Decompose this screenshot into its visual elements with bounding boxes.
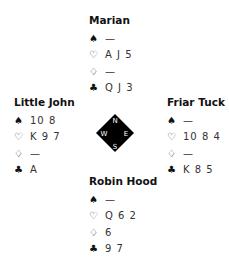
suit-row-clubs: ♣ 9 7 — [89, 241, 157, 258]
suit-cards: Q J 3 — [105, 82, 134, 93]
suit-row-diamonds: ♢ — — [14, 145, 75, 162]
club-icon: ♣ — [89, 243, 105, 254]
compass-east-label: E — [124, 130, 128, 138]
player-name-east: Friar Tuck — [167, 95, 225, 109]
suit-row-clubs: ♣ Q J 3 — [89, 80, 134, 97]
suit-row-diamonds: ♢ 6 — [89, 224, 157, 241]
suit-row-spades: ♠ 10 8 — [14, 112, 75, 129]
suit-row-clubs: ♣ K 8 5 — [167, 162, 225, 179]
suit-cards: A J 5 — [105, 49, 133, 60]
player-name-north: Marian — [89, 13, 134, 27]
suit-cards: — — [183, 115, 194, 126]
diamond-icon: ♢ — [14, 148, 30, 159]
spade-icon: ♠ — [167, 115, 183, 126]
suit-cards: 10 8 — [30, 115, 56, 126]
suit-cards: 6 — [105, 227, 112, 238]
spade-icon: ♠ — [89, 33, 105, 44]
compass-west-label: W — [101, 130, 108, 138]
player-name-south: Robin Hood — [89, 174, 157, 188]
suit-row-diamonds: ♢ — — [167, 145, 225, 162]
suit-cards: 9 7 — [105, 243, 124, 254]
heart-icon: ♡ — [89, 49, 105, 60]
suit-row-hearts: ♡ Q 6 2 — [89, 208, 157, 225]
suit-cards: — — [183, 148, 194, 159]
compass-south-label: S — [113, 143, 118, 151]
suit-cards: 10 8 4 — [183, 131, 221, 142]
north-hand: Marian ♠ — ♡ A J 5 ♢ — ♣ Q J 3 — [89, 13, 134, 96]
suit-row-clubs: ♣ A — [14, 162, 75, 179]
club-icon: ♣ — [14, 164, 30, 175]
diamond-icon: ♢ — [89, 227, 105, 238]
suit-cards: K 8 5 — [183, 164, 214, 175]
suit-row-hearts: ♡ A J 5 — [89, 47, 134, 64]
player-name-west: Little John — [14, 95, 75, 109]
heart-icon: ♡ — [167, 131, 183, 142]
east-hand: Friar Tuck ♠ — ♡ 10 8 4 ♢ — ♣ K 8 5 — [167, 95, 225, 178]
suit-cards: — — [105, 194, 116, 205]
heart-icon: ♡ — [89, 210, 105, 221]
spade-icon: ♠ — [14, 115, 30, 126]
diamond-icon: ♢ — [167, 148, 183, 159]
diamond-icon: ♢ — [89, 66, 105, 77]
suit-cards: — — [105, 66, 116, 77]
spade-icon: ♠ — [89, 194, 105, 205]
compass-north-label: N — [112, 117, 117, 125]
club-icon: ♣ — [167, 164, 183, 175]
west-hand: Little John ♠ 10 8 ♡ K 9 7 ♢ — ♣ A — [14, 95, 75, 178]
suit-cards: Q 6 2 — [105, 210, 137, 221]
suit-cards: K 9 7 — [30, 131, 61, 142]
suit-cards: — — [30, 148, 41, 159]
heart-icon: ♡ — [14, 131, 30, 142]
suit-row-spades: ♠ — — [167, 112, 225, 129]
suit-row-diamonds: ♢ — — [89, 63, 134, 80]
suit-row-hearts: ♡ K 9 7 — [14, 129, 75, 146]
suit-cards: — — [105, 33, 116, 44]
suit-row-spades: ♠ — — [89, 30, 134, 47]
suit-row-spades: ♠ — — [89, 191, 157, 208]
compass-icon: N E S W — [96, 114, 134, 152]
suit-row-hearts: ♡ 10 8 4 — [167, 129, 225, 146]
club-icon: ♣ — [89, 82, 105, 93]
suit-cards: A — [30, 164, 38, 175]
south-hand: Robin Hood ♠ — ♡ Q 6 2 ♢ 6 ♣ 9 7 — [89, 174, 157, 257]
